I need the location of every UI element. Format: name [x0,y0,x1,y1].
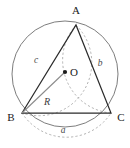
circumcircle-diagram-svg: A B C O a b c R [0,0,130,148]
vertex-label-b: B [7,111,14,123]
vertex-label-c: C [117,111,124,123]
center-label-o: O [70,66,78,78]
radius-label-r: R [43,96,50,107]
side-label-a: a [61,125,66,135]
side-label-b: b [98,58,103,68]
geometry-figure: A B C O a b c R [0,0,130,148]
side-label-c: c [34,55,39,65]
center-point-dot [63,70,67,74]
vertex-label-a: A [72,4,80,16]
arc-side-a [22,113,111,137]
